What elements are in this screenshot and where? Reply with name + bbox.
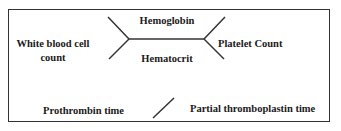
prothrombin-time-label: Prothrombin time xyxy=(43,105,124,117)
hematocrit-label: Hematocrit xyxy=(130,53,204,65)
platelet-count-label: Platelet Count xyxy=(218,38,282,50)
wbc-label-line2: count xyxy=(10,52,96,64)
left-lower-branch xyxy=(109,39,129,59)
left-upper-branch xyxy=(108,17,129,39)
wbc-label-line1: White blood cell xyxy=(10,38,96,50)
coag-slash xyxy=(153,98,174,118)
hemoglobin-label: Hemoglobin xyxy=(130,15,204,27)
ptt-label: Partial thromboplastin time xyxy=(190,103,315,115)
right-upper-branch xyxy=(204,17,225,39)
